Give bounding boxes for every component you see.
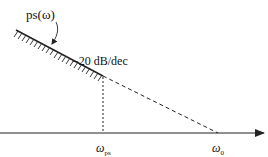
label-pointer-arrow (52, 22, 58, 44)
diagram-canvas (0, 0, 268, 157)
curve-label: ps(ω) (26, 8, 55, 21)
tick-label-omega-0: ω0 (212, 142, 224, 157)
tick-label-omega-ps: ωps (96, 142, 111, 157)
slope-label: −20 dB/dec (72, 55, 128, 67)
dashed-asymptote-extension (103, 76, 218, 133)
